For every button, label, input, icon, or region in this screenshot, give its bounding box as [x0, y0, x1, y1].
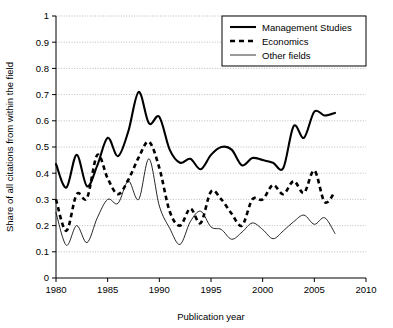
x-tick-label: 1995 [200, 284, 221, 295]
x-tick-label: 2005 [304, 284, 325, 295]
y-tick-label: 0 [44, 272, 49, 283]
x-tick-label: 2010 [355, 284, 376, 295]
y-tick-label: 0.7 [36, 89, 49, 100]
x-tick-label: 1980 [45, 284, 66, 295]
y-tick-label: 0.3 [36, 194, 49, 205]
x-axis-title: Publication year [177, 311, 245, 322]
legend-label-management-studies: Management Studies [262, 22, 352, 33]
y-tick-label: 0.2 [36, 220, 49, 231]
x-axis: 1980198519901995200020052010 [45, 278, 376, 295]
y-tick-label: 0.4 [36, 168, 49, 179]
x-tick-label: 2000 [252, 284, 273, 295]
legend-label-other-fields: Other fields [262, 50, 311, 61]
x-tick-label: 1990 [149, 284, 170, 295]
y-tick-label: 0.1 [36, 246, 49, 257]
legend-label-economics: Economics [262, 36, 309, 47]
y-tick-label: 0.5 [36, 141, 49, 152]
line-chart: 00.10.20.30.40.50.60.70.80.91 1980198519… [0, 0, 393, 328]
y-tick-label: 0.6 [36, 115, 49, 126]
y-tick-label: 0.8 [36, 63, 49, 74]
chart-figure: 00.10.20.30.40.50.60.70.80.91 1980198519… [0, 0, 393, 328]
y-tick-label: 0.9 [36, 37, 49, 48]
y-axis-title: Share of all citations from within the f… [4, 62, 15, 232]
chart-legend: Management Studies Economics Other field… [222, 16, 366, 66]
y-tick-label: 1 [44, 10, 49, 21]
x-tick-label: 1985 [97, 284, 118, 295]
y-axis: 00.10.20.30.40.50.60.70.80.91 [36, 10, 56, 283]
